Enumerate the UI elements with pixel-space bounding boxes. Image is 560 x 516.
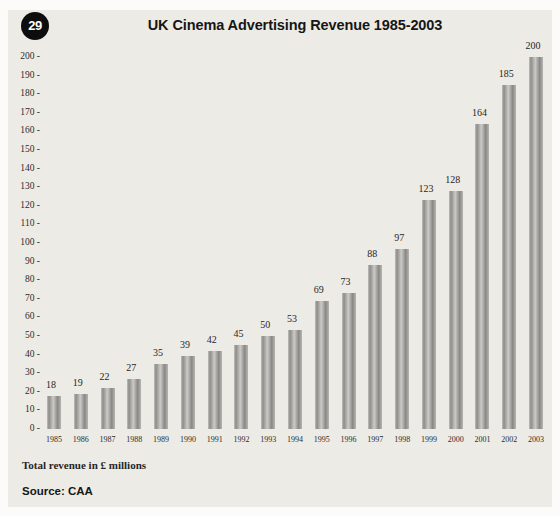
bar-1990 [181,356,195,429]
y-axis-tick-160: 160 - [0,125,40,135]
y-axis-tick-140: 140 - [0,163,40,173]
y-axis-tick-90: 90 - [0,256,40,266]
axis-units-caption: Total revenue in £ millions [22,459,146,471]
y-axis-tick-200: 200 - [0,51,40,61]
bar-value-1997: 88 [352,248,392,259]
bar-1993 [261,336,275,429]
y-axis-tick-50: 50 - [0,330,40,340]
bar-1989 [154,364,168,429]
bar-2003 [529,57,543,429]
y-axis-tick-110: 110 - [0,218,40,228]
y-axis-tick-70: 70 - [0,293,40,303]
x-axis-label-2003: 2003 [518,435,554,444]
bar-1995 [315,301,329,429]
bar-1987 [101,388,115,429]
y-axis-tick-180: 180 - [0,88,40,98]
bar-value-2002: 185 [486,68,526,79]
source-note: Source: CAA [22,485,93,497]
bar-1985 [47,396,61,429]
page: 29 UK Cinema Advertising Revenue 1985-20… [0,0,560,516]
bar-value-2001: 164 [459,107,499,118]
y-axis-tick-10: 10 - [0,404,40,414]
y-axis-tick-150: 150 - [0,144,40,154]
bar-1988 [127,379,141,429]
bar-1986 [74,394,88,429]
y-axis-tick-0: 0 - [0,423,40,433]
y-axis-tick-80: 80 - [0,274,40,284]
bar-1999 [422,200,436,429]
bar-chart: 0 -10 -20 -30 -40 -50 -60 -70 -80 -90 -1… [0,0,560,516]
bar-1992 [234,345,248,429]
bar-2001 [475,124,489,429]
y-axis-tick-30: 30 - [0,367,40,377]
bar-2000 [449,191,463,429]
bar-value-2000: 128 [433,174,473,185]
bar-value-2003: 200 [513,40,553,51]
bar-value-1994: 53 [272,313,312,324]
y-axis-tick-100: 100 - [0,237,40,247]
y-axis-tick-130: 130 - [0,181,40,191]
bar-1994 [288,330,302,429]
y-axis-tick-190: 190 - [0,70,40,80]
bar-value-1998: 97 [379,232,419,243]
bar-1997 [368,265,382,429]
bar-1996 [342,293,356,429]
y-axis-tick-120: 120 - [0,200,40,210]
y-axis-tick-60: 60 - [0,311,40,321]
y-axis-tick-40: 40 - [0,349,40,359]
bar-1991 [208,351,222,429]
bar-1998 [395,249,409,429]
y-axis-tick-170: 170 - [0,107,40,117]
bar-2002 [502,85,516,429]
bar-value-1988: 27 [111,362,151,373]
bar-value-1996: 73 [326,276,366,287]
